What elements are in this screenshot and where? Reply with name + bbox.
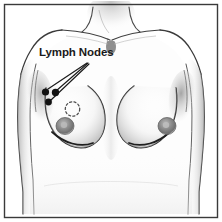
nipple-right <box>163 122 169 128</box>
lymph-node-marker-2 <box>52 89 59 96</box>
areola-left <box>56 118 74 135</box>
illustration-frame: Lymph Nodes <box>0 0 222 222</box>
areola-right <box>158 118 176 135</box>
lymph-node-marker-3 <box>45 99 52 106</box>
lymph-nodes-label: Lymph Nodes <box>39 47 114 59</box>
anatomy-illustration <box>0 0 222 222</box>
lymph-node-marker-1 <box>42 88 49 95</box>
nipple-left <box>61 122 67 128</box>
